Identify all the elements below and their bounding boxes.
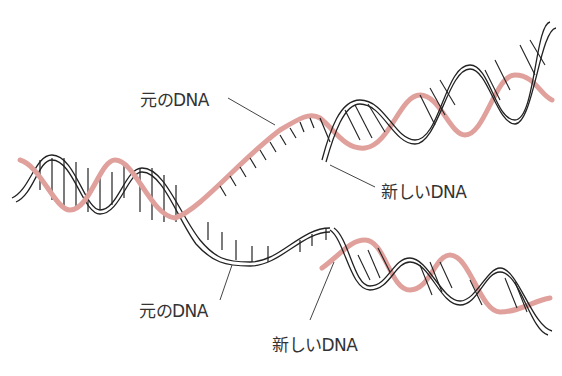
bottom-daughter-black xyxy=(330,228,552,335)
leader-bottom-original xyxy=(220,265,232,300)
bottom-original-ticks xyxy=(208,222,326,262)
top-daughter-helix-black xyxy=(322,22,556,162)
parent-helix-rungs xyxy=(40,158,176,222)
label-bottom-original-dna: 元のDNA xyxy=(139,297,208,322)
label-top-new-dna: 新しいDNA xyxy=(381,178,466,203)
top-daughter-rungs xyxy=(345,40,545,140)
top-original-ticks xyxy=(220,118,330,196)
leader-top-new xyxy=(330,165,375,187)
parent-helix-black-strand xyxy=(12,155,330,266)
label-top-original-dna: 元のDNA xyxy=(140,86,209,111)
label-bottom-new-dna: 新しいDNA xyxy=(272,331,357,356)
dna-replication-diagram xyxy=(0,0,562,376)
leader-bottom-new xyxy=(310,262,334,320)
leader-top-original xyxy=(228,98,275,125)
leader-lines xyxy=(220,98,375,320)
